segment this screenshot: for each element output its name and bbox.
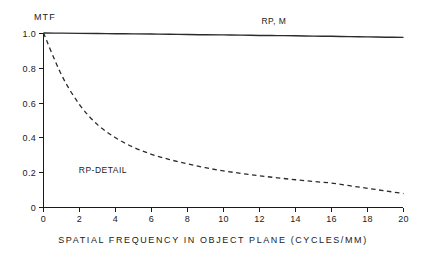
series-line-rp-m [44, 33, 404, 37]
x-tick-label: 12 [254, 214, 265, 224]
x-tick-label: 10 [218, 214, 229, 224]
x-axis-title: SPATIAL FREQUENCY IN OBJECT PLANE (CYCLE… [58, 235, 368, 245]
x-tick-label: 8 [185, 214, 190, 224]
x-tick-label: 2 [77, 214, 82, 224]
x-tick-label: 0 [41, 214, 46, 224]
y-axis-title: MTF [34, 12, 56, 22]
x-tick-label: 20 [398, 214, 409, 224]
x-axis-ticks [44, 208, 404, 213]
x-tick-label: 6 [149, 214, 154, 224]
y-axis-tick-labels: 1.0 0.8 0.6 0.4 0.2 0 [23, 29, 36, 213]
y-tick-label: 0.4 [23, 133, 36, 143]
x-tick-label: 18 [362, 214, 373, 224]
y-tick-label: 0.8 [23, 64, 36, 74]
y-tick-label: 1.0 [23, 29, 36, 39]
series-annotation-rp-detail: RP-DETAIL [79, 165, 127, 175]
y-axis-ticks [39, 34, 44, 208]
series-annotation-rp-m: RP, M [261, 16, 286, 26]
x-axis-tick-labels: 0 2 4 6 8 10 12 14 16 18 20 [41, 214, 409, 224]
x-tick-label: 16 [326, 214, 337, 224]
x-tick-label: 4 [113, 214, 118, 224]
y-tick-label: 0.2 [23, 168, 36, 178]
y-tick-label: 0.6 [23, 99, 36, 109]
y-tick-label: 0 [31, 203, 36, 213]
x-tick-label: 14 [290, 214, 301, 224]
mtf-chart: MTF 1.0 0.8 0.6 0.4 0.2 0 0 2 4 [0, 0, 423, 256]
